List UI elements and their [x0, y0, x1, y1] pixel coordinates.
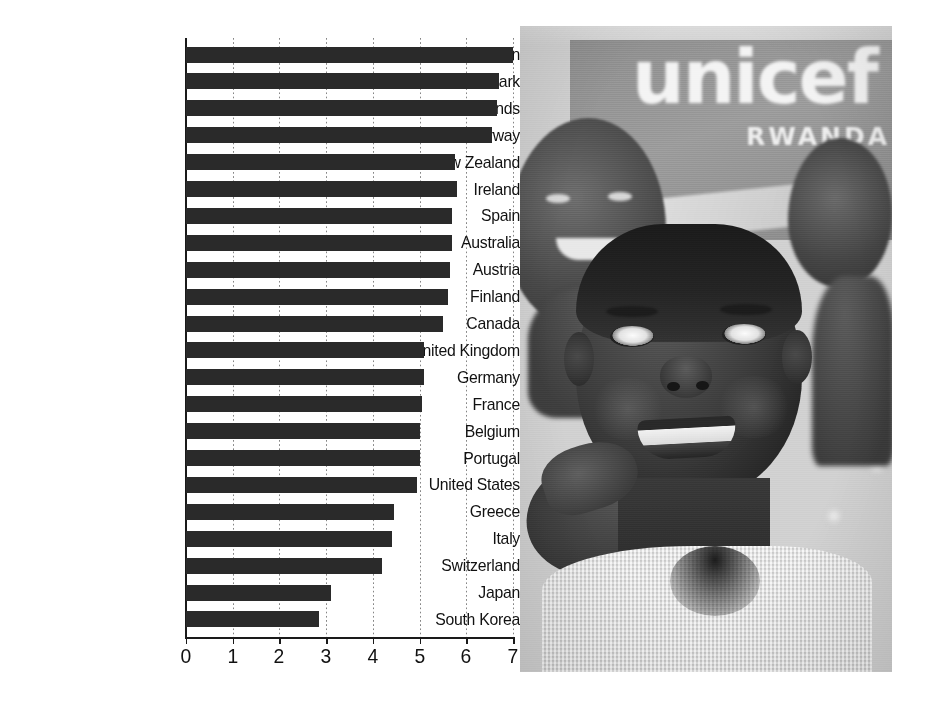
category-label: Japan: [353, 582, 520, 604]
photo-children: unicef RWANDA: [520, 26, 892, 672]
x-tick-3: [326, 637, 328, 644]
bar-chart: SwedenDenmarkNetherlandsNorwayNew Zealan…: [0, 0, 520, 704]
bar: [186, 504, 394, 520]
bar-row: Japan: [0, 582, 520, 609]
x-tick-4: [373, 637, 375, 644]
bar: [186, 396, 422, 412]
bar: [186, 208, 452, 224]
bar-row: Sweden: [0, 44, 520, 71]
bar: [186, 369, 424, 385]
bar-row: South Korea: [0, 609, 520, 636]
bar-row: Belgium: [0, 421, 520, 448]
bar: [186, 262, 450, 278]
x-tick-1: [233, 637, 235, 644]
bar-row: Italy: [0, 528, 520, 555]
bar: [186, 73, 499, 89]
bar: [186, 477, 417, 493]
bar-row: Ireland: [0, 179, 520, 206]
foreground-child-hair: [576, 224, 802, 342]
bar: [186, 100, 497, 116]
bar-row: Switzerland: [0, 555, 520, 582]
bar-row: United States: [0, 474, 520, 501]
bar-row: New Zealand: [0, 152, 520, 179]
x-tick-label-3: 3: [308, 643, 345, 669]
bar-row: Norway: [0, 125, 520, 152]
x-tick-label-1: 1: [214, 643, 251, 669]
bar: [186, 47, 513, 63]
foreground-child-ear-right: [782, 330, 812, 384]
foreground-child-eye-left: [610, 326, 654, 347]
x-tick-label-5: 5: [401, 643, 438, 669]
bar-row: Portugal: [0, 448, 520, 475]
bar: [186, 154, 455, 170]
category-label: South Korea: [353, 609, 520, 631]
bar-row: Australia: [0, 232, 520, 259]
bar-row: Spain: [0, 205, 520, 232]
bar: [186, 585, 331, 601]
bar: [186, 611, 319, 627]
foreground-child-collar-shadow: [670, 546, 760, 616]
bar: [186, 316, 443, 332]
bar-row: Netherlands: [0, 98, 520, 125]
x-axis-line: [185, 637, 514, 639]
foreground-child-ear-left: [564, 332, 594, 386]
x-tick-7: [513, 637, 515, 644]
bar-row: France: [0, 394, 520, 421]
x-tick-5: [420, 637, 422, 644]
x-tick-0: [186, 637, 188, 644]
bar-row: United Kingdom: [0, 340, 520, 367]
foreground-child-nostril-right: [696, 381, 709, 390]
bar: [186, 423, 420, 439]
bar: [186, 127, 492, 143]
bar-row: Finland: [0, 286, 520, 313]
x-tick-label-4: 4: [354, 643, 391, 669]
foreground-child-nose: [660, 356, 712, 398]
x-axis-tick-labels: 01234567: [0, 643, 520, 673]
bar-row: Denmark: [0, 71, 520, 98]
bar: [186, 181, 457, 197]
x-tick-label-2: 2: [261, 643, 298, 669]
x-tick-label-6: 6: [448, 643, 485, 669]
bar: [186, 450, 420, 466]
bar: [186, 289, 448, 305]
foreground-child-nostril-left: [667, 382, 680, 391]
bar: [186, 531, 392, 547]
figure-panel: SwedenDenmarkNetherlandsNorwayNew Zealan…: [0, 0, 928, 704]
bar-row: Germany: [0, 367, 520, 394]
bar-row: Greece: [0, 501, 520, 528]
bar: [186, 558, 382, 574]
x-tick-2: [279, 637, 281, 644]
bar-row: Austria: [0, 259, 520, 286]
bar: [186, 342, 424, 358]
bar-row: Canada: [0, 313, 520, 340]
x-tick-6: [466, 637, 468, 644]
foreground-child-brow-left: [606, 306, 658, 317]
bar: [186, 235, 452, 251]
x-tick-label-0: 0: [167, 643, 204, 669]
foreground-child-brow-right: [720, 304, 772, 315]
photo-foreground-child: [520, 26, 892, 672]
foreground-child-eye-right: [722, 324, 766, 345]
